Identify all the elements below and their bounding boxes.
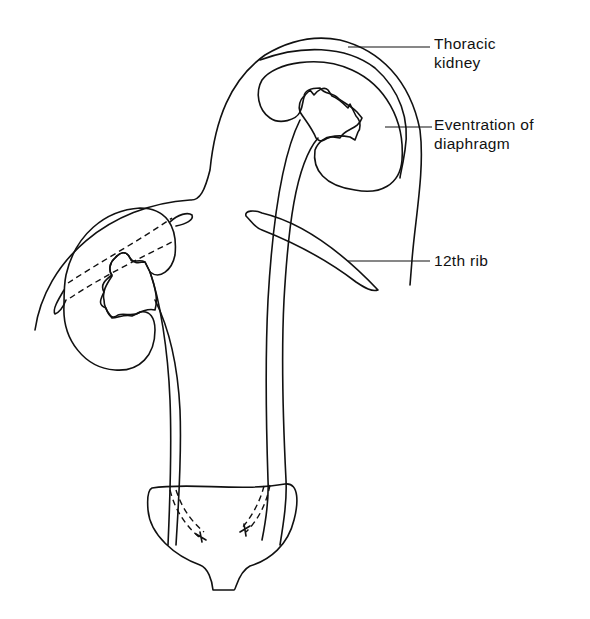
thoracic-ureter-left-wall bbox=[262, 120, 300, 540]
thoracic-kidney-diagram bbox=[0, 0, 590, 619]
ureter-intramural-left-b bbox=[176, 490, 204, 532]
thoracic-kidney bbox=[258, 62, 402, 191]
upper-renal-pelvis bbox=[300, 88, 360, 140]
ureter-intramural-right-b bbox=[242, 486, 264, 528]
normal-renal-pelvis bbox=[103, 253, 156, 318]
left-rib-stub bbox=[170, 214, 192, 226]
ureter-intramural-left bbox=[170, 490, 200, 538]
normal-kidney bbox=[64, 208, 176, 370]
label-12th-rib: 12th rib bbox=[434, 251, 488, 270]
rib-dashed-behind-kidney bbox=[68, 218, 172, 283]
label-eventration-of-diaphragm: Eventration of diaphragm bbox=[434, 115, 534, 153]
label-thoracic-kidney: Thoracic kidney bbox=[434, 34, 496, 72]
ureteric-orifice-left bbox=[196, 532, 206, 542]
normal-ureter-right-wall bbox=[155, 300, 181, 545]
eventration-line bbox=[260, 50, 406, 178]
rib-12th bbox=[246, 211, 378, 290]
